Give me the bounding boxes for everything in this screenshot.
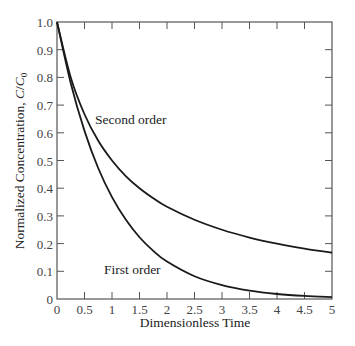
y-tick-label: 0.3: [37, 209, 53, 224]
plot-border: [57, 22, 332, 299]
series-label-first-order: First order: [104, 262, 161, 277]
x-tick-label: 1: [109, 302, 116, 317]
y-axis-ticks: 00.10.20.30.40.50.60.70.80.91.0: [37, 15, 332, 307]
x-tick-label: 5: [329, 302, 336, 317]
series-line-first-order: [57, 22, 332, 297]
x-axis-label: Dimensionless Time: [140, 315, 251, 330]
plot-frame: [57, 22, 332, 299]
series-labels: First orderSecond order: [95, 112, 167, 277]
x-tick-label: 4.5: [296, 302, 312, 317]
y-tick-label: 0.8: [37, 70, 53, 85]
x-tick-label: 4: [274, 302, 281, 317]
y-tick-label: 0.4: [37, 181, 54, 196]
y-tick-label: 0.5: [37, 154, 53, 169]
x-axis-ticks: 00.511.522.533.544.55: [54, 22, 336, 317]
y-tick-label: 0: [47, 292, 54, 307]
y-axis-label-sub: 0: [19, 72, 29, 77]
y-tick-label: 0.6: [37, 126, 54, 141]
series-line-second-order: [57, 22, 332, 253]
y-tick-label: 0.9: [37, 43, 53, 58]
y-axis-label: Normalized Concentration, C/C0: [12, 72, 29, 249]
y-tick-label: 0.1: [37, 264, 53, 279]
series-label-second-order: Second order: [95, 112, 167, 127]
y-tick-label: 0.7: [37, 98, 54, 113]
x-tick-label: 0.5: [76, 302, 92, 317]
y-tick-label: 1.0: [37, 15, 53, 30]
series-lines: [57, 22, 332, 297]
y-tick-label: 0.2: [37, 237, 53, 252]
y-axis-label-main: Normalized Concentration,: [12, 99, 27, 249]
chart: 00.511.522.533.544.55 00.10.20.30.40.50.…: [0, 0, 355, 346]
x-tick-label: 0: [54, 302, 61, 317]
